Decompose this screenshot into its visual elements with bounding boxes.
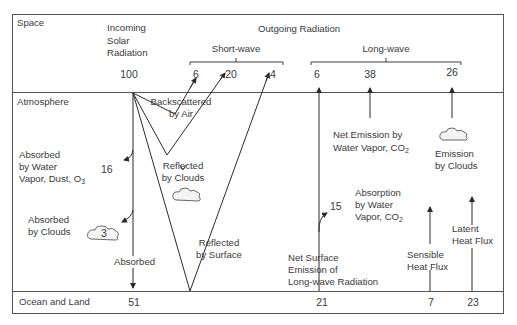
value-sensible: 7	[428, 296, 434, 308]
absorption-water-label-2: by Water	[355, 199, 393, 211]
incoming-header-2: Solar	[107, 35, 129, 47]
value-reflected-clouds: 20	[225, 68, 237, 80]
short-wave-header: Short-wave	[212, 43, 261, 55]
reflected-clouds-label-1: Reflected	[163, 160, 204, 172]
cloud-icon-emission	[440, 128, 468, 140]
cloud-icon-reflect	[173, 188, 201, 201]
value-absorbed-surface: 51	[128, 296, 140, 308]
zone-surface-label: Ocean and Land	[19, 296, 90, 308]
net-emission-label-1: Net Emission by	[333, 129, 402, 141]
value-lw-clouds: 26	[446, 66, 458, 78]
emission-clouds-label-1: Emission	[435, 148, 474, 160]
value-absorbed-clouds: 3	[101, 227, 107, 239]
value-lw-surface: 6	[314, 68, 320, 80]
long-wave-bracket	[311, 58, 461, 65]
absorbed-clouds-arrow	[122, 210, 133, 222]
value-lw-water-vapor: 38	[364, 68, 376, 80]
absorption-water-label-1: Absorption	[355, 187, 401, 199]
latent-label-2: Heat Flux	[452, 235, 493, 247]
sensible-label-2: Heat Flux	[407, 261, 448, 273]
absorption-water-label-3: Vapor, CO2	[355, 211, 403, 223]
earth-energy-balance-diagram: Space Atmosphere Ocean and Land Incoming…	[0, 0, 517, 325]
incoming-header-3: Radiation	[107, 47, 148, 59]
absorbed-water-label-3: Vapor, Dust, O3	[19, 173, 85, 185]
backscattered-label-1: Backscattered	[151, 96, 212, 108]
value-backscattered: 6	[193, 68, 199, 80]
absorbed-water-label-2: by Water	[19, 161, 57, 173]
absorbed-clouds-label-2: by Clouds	[28, 226, 71, 238]
absorbed-label: Absorbed	[113, 256, 156, 268]
absorption-water-arrow	[319, 213, 327, 232]
backscattered-label-2: by Air	[169, 108, 193, 120]
absorbed-water-label-1: Absorbed	[19, 149, 60, 161]
zone-atmosphere-label: Atmosphere	[17, 96, 69, 108]
emission-clouds-label-2: by Clouds	[435, 160, 478, 172]
net-surface-label-2: Emission of	[288, 264, 338, 276]
short-wave-bracket	[190, 58, 283, 65]
sensible-label-1: Sensible	[407, 249, 444, 261]
long-wave-header: Long-wave	[363, 43, 410, 55]
value-reflected-surface: 4	[270, 68, 276, 80]
value-absorption-water: 15	[330, 200, 342, 212]
zone-space-label: Space	[17, 17, 44, 29]
net-surface-label-3: Long-wave Radiation	[288, 276, 378, 288]
value-incoming: 100	[120, 68, 138, 80]
value-absorbed-water: 16	[101, 163, 113, 175]
latent-label-1: Latent	[452, 223, 479, 235]
absorbed-water-arrow	[124, 150, 133, 160]
incoming-header-1: Incoming	[107, 22, 146, 34]
reflected-surface-label-2: by Surface	[196, 249, 242, 261]
reflected-clouds-label-2: by Clouds	[162, 172, 205, 184]
value-net-surface: 21	[316, 296, 328, 308]
net-surface-label-1: Net Surface	[288, 252, 339, 264]
absorbed-clouds-label-1: Absorbed	[28, 214, 69, 226]
net-emission-label-2: Water Vapor, CO2	[333, 142, 409, 154]
reflected-surface-label-1: Reflected	[199, 237, 240, 249]
value-latent: 23	[467, 296, 479, 308]
outgoing-header: Outgoing Radiation	[258, 23, 340, 35]
